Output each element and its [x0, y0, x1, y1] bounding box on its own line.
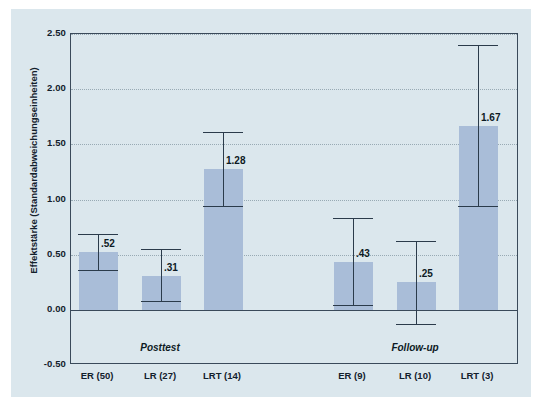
y-axis-title: Effektstärke (Standardabweichungseinheit… [28, 21, 39, 321]
error-bar-cap-lower [203, 206, 243, 207]
error-bar-cap-lower [396, 324, 436, 325]
x-axis-group-label: Follow-up [355, 342, 475, 353]
gridline [71, 144, 517, 145]
y-axis-tick-label: 1.50 [47, 137, 66, 148]
error-bar-line [98, 234, 99, 270]
error-bar-line [353, 218, 354, 305]
y-axis-tick-label: 1.00 [47, 193, 66, 204]
y-axis-tick-label: 0.50 [47, 248, 66, 259]
bar-value-label: .25 [419, 268, 433, 279]
error-bar-cap-upper [333, 218, 373, 219]
gridline [71, 34, 517, 35]
error-bar-cap-lower [141, 301, 181, 302]
y-axis-tick-label: -0.50 [44, 358, 66, 369]
gridline [71, 255, 517, 256]
bar-value-label: .43 [356, 248, 370, 259]
bar-value-label: 1.67 [481, 112, 500, 123]
error-bar-cap-upper [458, 45, 498, 46]
x-axis-group-label: Posttest [100, 342, 220, 353]
bar-value-label: .52 [101, 238, 115, 249]
error-bar-cap-lower [458, 206, 498, 207]
error-bar-line [416, 241, 417, 324]
chart-figure: 2.502.001.501.000.500.00-0.50 Effektstär… [0, 0, 542, 406]
bar-value-label: .31 [164, 262, 178, 273]
error-bar-line [223, 132, 224, 206]
gridline [71, 89, 517, 90]
plot-area: .52.311.28.43.251.67 [70, 33, 518, 364]
gridline [71, 200, 517, 201]
bar-value-label: 1.28 [226, 155, 245, 166]
error-bar-cap-lower [333, 305, 373, 306]
zero-line [71, 310, 517, 311]
y-axis-tick-label: 2.00 [47, 82, 66, 93]
x-axis-category-label: LRT (14) [177, 370, 267, 381]
error-bar-line [161, 249, 162, 301]
y-axis-tick-label: 2.50 [47, 27, 66, 38]
x-axis-category-label: LRT (3) [432, 370, 522, 381]
error-bar-cap-upper [203, 132, 243, 133]
error-bar-cap-lower [78, 270, 118, 271]
error-bar-cap-upper [78, 234, 118, 235]
error-bar-line [478, 45, 479, 206]
error-bar-cap-upper [141, 249, 181, 250]
y-axis-tick-label: 0.00 [47, 303, 66, 314]
error-bar-cap-upper [396, 241, 436, 242]
